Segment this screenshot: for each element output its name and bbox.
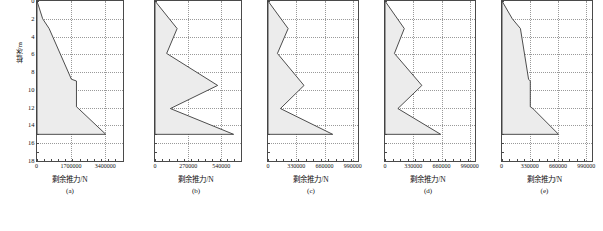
x-axis-label: 剩余推力/N [15, 173, 125, 184]
y-tick-label: 2 [31, 14, 34, 21]
thrust-curve-e [502, 1, 592, 161]
panel-caption-c: (c) [254, 187, 368, 195]
plot-area-b [154, 0, 242, 162]
y-axis-label: 桩深/m [17, 42, 26, 63]
thrust-curve-b [155, 1, 241, 161]
thrust-curve-a [37, 1, 123, 161]
panel-caption-d: (d) [371, 187, 485, 195]
x-tick-label: 330000 [404, 163, 422, 169]
y-tick-label: 4 [31, 32, 34, 39]
x-tick-label: 990000 [461, 163, 479, 169]
x-tick-label: 0 [500, 163, 503, 169]
x-axis-label: 剩余推力/N [488, 173, 602, 184]
y-tick-label: 16 [28, 139, 35, 146]
thrust-curve-c [268, 1, 358, 161]
x-tick-label: 0 [154, 163, 157, 169]
x-tick-label: 1700000 [60, 163, 81, 169]
residual-thrust-area [155, 1, 234, 134]
x-axis-label: 剩余推力/N [141, 173, 251, 184]
x-tick-label: 0 [35, 163, 38, 169]
y-tick-label: 10 [28, 85, 35, 92]
plot-area-d [384, 0, 476, 162]
panel-caption-a: (a) [15, 187, 125, 195]
x-axis-tick [123, 159, 124, 161]
x-axis-tick [241, 159, 242, 161]
y-tick-label: 14 [28, 121, 35, 128]
chart-panel-c: 0330000660000990000剩余推力/N(c) [252, 0, 370, 231]
residual-thrust-area [37, 1, 106, 134]
figure-residual-thrust-panels: 桩深/m024681012141618017000003400000剩余推力/N… [0, 0, 603, 231]
chart-panel-b: 0270000540000剩余推力/N(b) [140, 0, 252, 231]
x-tick-labels: 0330000660000990000 [385, 162, 475, 172]
chart-panel-e: 0330000660000990000剩余推力/N(e) [486, 0, 603, 231]
y-tick-labels: 024681012141618 [26, 0, 36, 160]
y-tick-label: 12 [28, 103, 35, 110]
x-tick-labels: 017000003400000 [37, 162, 123, 172]
x-tick-label: 990000 [344, 163, 362, 169]
x-tick-label: 660000 [316, 163, 334, 169]
residual-thrust-area [385, 1, 441, 134]
x-axis-tick [358, 159, 359, 161]
x-tick-label: 0 [384, 163, 387, 169]
x-tick-label: 3400000 [95, 163, 116, 169]
x-axis-tick [475, 159, 476, 161]
x-tick-label: 990000 [577, 163, 595, 169]
y-tick-label: 6 [31, 50, 34, 57]
chart-panel-a: 桩深/m024681012141618017000003400000剩余推力/N… [0, 0, 140, 231]
x-tick-label: 0 [267, 163, 270, 169]
plot-area-c [267, 0, 359, 162]
x-tick-label: 330000 [287, 163, 305, 169]
y-tick-label: 8 [31, 68, 34, 75]
x-tick-label: 330000 [521, 163, 539, 169]
residual-thrust-area [268, 1, 333, 134]
plot-area-e [501, 0, 593, 162]
plot-area-a [36, 0, 124, 162]
x-tick-label: 540000 [212, 163, 230, 169]
x-tick-labels: 0330000660000990000 [502, 162, 592, 172]
panel-caption-b: (b) [141, 187, 251, 195]
x-tick-label: 660000 [549, 163, 567, 169]
x-axis-label: 剩余推力/N [371, 173, 485, 184]
chart-panel-d: 0330000660000990000剩余推力/N(d) [370, 0, 486, 231]
y-tick-label: 18 [28, 157, 35, 164]
x-tick-label: 660000 [433, 163, 451, 169]
x-tick-labels: 0330000660000990000 [268, 162, 358, 172]
x-tick-labels: 0270000540000 [155, 162, 241, 172]
y-tick-label: 0 [31, 0, 34, 4]
panel-caption-e: (e) [488, 187, 602, 195]
x-axis-tick [592, 159, 593, 161]
x-tick-label: 270000 [179, 163, 197, 169]
thrust-curve-d [385, 1, 475, 161]
x-axis-label: 剩余推力/N [254, 173, 368, 184]
residual-thrust-area [502, 1, 559, 134]
